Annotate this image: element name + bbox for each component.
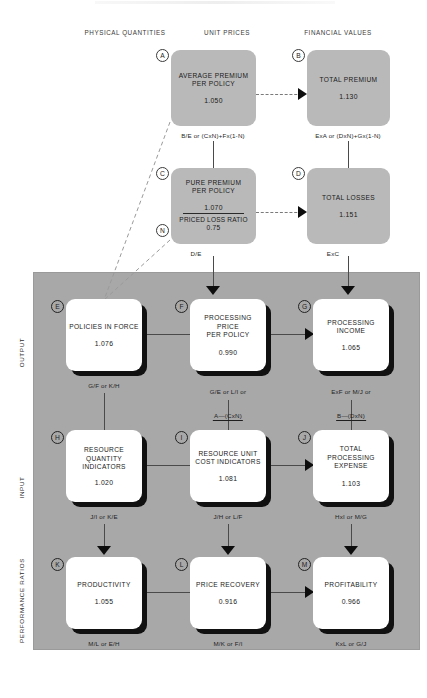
node-formula-c: D/E (191, 250, 202, 258)
node-box-h-resource-quantity-indicators[interactable]: RESOURCE QUANTITY INDICATORS 1.020 (66, 430, 142, 502)
node-formula-g-numerator: B—(DxN) (336, 412, 366, 421)
node-formula-f-prefix: G/E or L/I or (210, 388, 246, 395)
node-title-l: PRICE RECOVERY (196, 581, 260, 589)
node-title-h: RESOURCE QUANTITY INDICATORS (82, 446, 126, 471)
node-box-f-processing-price-per-policy[interactable]: PROCESSING PRICE PER POLICY 0.990 (190, 299, 266, 371)
node-formula-b: ExA or (DxN)+Gx(1-N) (315, 132, 381, 140)
node-value-b: 1.130 (339, 93, 358, 100)
node-subtitle-c-priced-loss-ratio: PRICED LOSS RATIO (179, 216, 247, 224)
node-tag-c: C (156, 167, 169, 180)
arrowhead-into-m (344, 546, 358, 555)
node-tag-n: N (156, 224, 169, 237)
node-box-l-price-recovery[interactable]: PRICE RECOVERY 0.916 (190, 557, 266, 629)
node-tag-j: J (298, 431, 311, 444)
column-header-financial-values: FINANCIAL VALUES (304, 29, 372, 36)
band-label-output: OUTPUT (18, 313, 25, 393)
arrowhead-into-k (97, 546, 111, 555)
node-box-b-total-premium[interactable]: TOTAL PREMIUM 1.130 (307, 50, 390, 126)
top-edge-artifact (95, 1, 335, 4)
node-value-m: 0.966 (342, 598, 361, 605)
node-value-h: 1.020 (95, 479, 114, 486)
node-formula-l: M/K or F/I (213, 640, 242, 648)
arrowhead-into-d (298, 206, 307, 218)
node-formula-m: KxL or G/J (336, 640, 367, 648)
column-header-unit-prices: UNIT PRICES (204, 29, 250, 36)
node-title-k: PRODUCTIVITY (77, 581, 130, 589)
connector-c-to-d (256, 212, 302, 213)
arrowhead-into-f (206, 286, 220, 295)
node-title-j: TOTAL PROCESSING EXPENSE (316, 445, 386, 470)
node-formula-k: M/L or E/H (88, 640, 119, 648)
node-value-c: 1.070 (204, 204, 223, 211)
node-tag-g: G (298, 300, 311, 313)
connector-a-to-b (256, 94, 302, 95)
node-subvalue-c-priced-loss-ratio: 0.75 (206, 224, 220, 232)
node-tag-k: K (51, 558, 64, 571)
band-label-input: INPUT (18, 448, 25, 528)
node-title-i: RESOURCE UNIT COST INDICATORS (195, 450, 260, 467)
connector-e-to-h (104, 393, 105, 430)
node-formula-i: J/H or L/F (213, 513, 242, 521)
node-box-d-total-losses[interactable]: TOTAL LOSSES 1.151 (307, 168, 390, 244)
node-value-d: 1.151 (339, 211, 358, 218)
node-title-d: TOTAL LOSSES (322, 194, 375, 202)
node-tag-h: H (51, 431, 64, 444)
node-box-g-processing-income[interactable]: PROCESSING INCOME 1.065 (313, 299, 389, 371)
node-formula-d: ExC (327, 250, 339, 258)
node-value-e: 1.076 (95, 340, 114, 347)
node-tag-f: F (175, 300, 188, 313)
node-title-g: PROCESSING INCOME (327, 319, 374, 336)
node-value-f: 0.990 (219, 349, 238, 356)
node-formula-a: B/E or (CxN)+Fx(1-N) (181, 132, 245, 140)
node-tag-a: A (156, 49, 169, 62)
node-value-i: 1.081 (219, 475, 238, 482)
node-formula-e: G/F or K/H (88, 382, 120, 390)
node-tag-b: B (292, 49, 305, 62)
node-title-c: PURE PREMIUM PER POLICY (186, 179, 242, 196)
connector-a-to-c (213, 141, 214, 168)
column-header-physical-quantities: PHYSICAL QUANTITIES (85, 29, 166, 36)
connector-j-to-m (351, 524, 352, 548)
arrowhead-into-l (221, 546, 235, 555)
node-value-j: 1.103 (342, 480, 361, 487)
connector-h-to-k (104, 524, 105, 548)
node-box-a-average-premium-per-policy[interactable]: AVERAGE PREMIUM PER POLICY 1.050 (171, 50, 256, 126)
node-box-j-total-processing-expense[interactable]: TOTAL PROCESSING EXPENSE 1.103 (313, 430, 389, 502)
node-tag-l: L (175, 558, 188, 571)
node-title-b: TOTAL PREMIUM (320, 76, 378, 84)
node-tag-i: I (175, 431, 188, 444)
node-box-e-policies-in-force[interactable]: POLICIES IN FORCE 1.076 (66, 299, 142, 371)
node-value-a: 1.050 (204, 97, 223, 104)
diagram-canvas: PHYSICAL QUANTITIES UNIT PRICES FINANCIA… (0, 0, 427, 698)
node-box-i-resource-unit-cost-indicators[interactable]: RESOURCE UNIT COST INDICATORS 1.081 (190, 430, 266, 502)
node-value-k: 1.055 (95, 598, 114, 605)
node-value-g: 1.065 (342, 344, 361, 351)
node-box-m-profitability[interactable]: PROFITABILITY 0.966 (313, 557, 389, 629)
node-formula-f-numerator: A—(CxN) (213, 412, 243, 421)
node-divider-c (183, 213, 243, 214)
connector-i-to-l (228, 524, 229, 548)
node-box-c-pure-premium-per-policy[interactable]: PURE PREMIUM PER POLICY 1.070 PRICED LOS… (171, 168, 256, 244)
node-title-e: POLICIES IN FORCE (69, 323, 139, 331)
node-formula-h: J/I or K/E (90, 513, 117, 521)
node-formula-g-prefix: ExF or M/J or (331, 388, 371, 395)
node-tag-e: E (51, 300, 64, 313)
node-value-l: 0.916 (219, 598, 238, 605)
arrowhead-into-b (298, 88, 307, 100)
connector-k-to-l (142, 592, 190, 593)
connector-c-to-f (213, 256, 214, 288)
band-label-performance-ratios: PERFORMANCE RATIOS (18, 541, 25, 661)
node-title-a: AVERAGE PREMIUM PER POLICY (179, 72, 249, 89)
node-title-m: PROFITABILITY (325, 581, 378, 589)
arrowhead-into-g (341, 286, 355, 295)
connector-e-to-f (142, 334, 190, 335)
node-tag-m: M (298, 558, 311, 571)
connector-h-to-i (142, 465, 190, 466)
node-tag-d: D (292, 167, 305, 180)
node-box-k-productivity[interactable]: PRODUCTIVITY 1.055 (66, 557, 142, 629)
connector-d-to-g (348, 256, 349, 288)
connector-b-to-d (348, 141, 349, 168)
node-formula-j: HxI or M/G (335, 513, 367, 521)
node-title-f: PROCESSING PRICE PER POLICY (193, 314, 263, 339)
